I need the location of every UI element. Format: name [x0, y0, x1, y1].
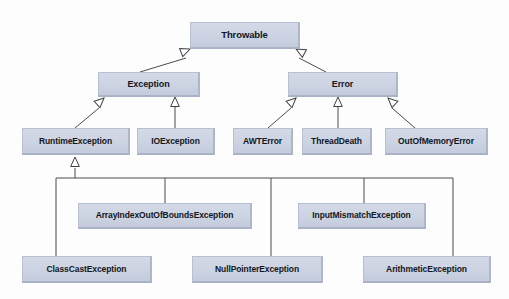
node-label: Error — [332, 80, 354, 89]
node-label: InputMismatchException — [312, 211, 410, 220]
edge-awt-error-to-error — [268, 95, 299, 128]
node-runtime-exception[interactable]: RuntimeException — [22, 128, 130, 155]
edge-io-exception-to-exception — [171, 97, 180, 128]
class-hierarchy-diagram: Throwable Exception Error RuntimeExcepti… — [0, 0, 509, 299]
node-io-exception[interactable]: IOException — [137, 128, 215, 155]
node-error[interactable]: Error — [288, 72, 398, 97]
edge-error-to-throwable — [294, 45, 326, 72]
node-label: ClassCastException — [47, 265, 127, 274]
node-label: OutOfMemoryError — [398, 137, 474, 146]
edge-out-of-memory-error-to-error — [385, 95, 415, 128]
node-label: Exception — [127, 80, 169, 89]
edge-exception-to-throwable — [140, 45, 192, 72]
node-label: IOException — [151, 137, 200, 146]
node-awt-error[interactable]: AWTError — [233, 128, 293, 155]
node-arithmetic-exception[interactable]: ArithmeticException — [363, 256, 491, 283]
edge-runtime-exception-to-exception — [75, 95, 107, 128]
edge-thread-death-to-error — [334, 97, 343, 128]
node-null-pointer-exception[interactable]: NullPointerException — [192, 256, 323, 283]
node-exception[interactable]: Exception — [98, 72, 200, 97]
node-throwable[interactable]: Throwable — [190, 22, 300, 49]
node-thread-death[interactable]: ThreadDeath — [302, 128, 372, 155]
node-label: AWTError — [243, 137, 282, 146]
node-out-of-memory-error[interactable]: OutOfMemoryError — [385, 128, 488, 155]
node-array-index-out-of-bounds-exception[interactable]: ArrayIndexOutOfBoundsException — [78, 203, 252, 229]
node-label: RuntimeException — [39, 137, 112, 146]
node-label: Throwable — [221, 30, 268, 40]
node-class-cast-exception[interactable]: ClassCastException — [22, 256, 152, 283]
node-label: ThreadDeath — [311, 137, 362, 146]
node-label: NullPointerException — [215, 265, 299, 274]
node-label: ArrayIndexOutOfBoundsException — [96, 211, 234, 220]
node-input-mismatch-exception[interactable]: InputMismatchException — [298, 203, 426, 229]
node-label: ArithmeticException — [386, 265, 467, 274]
